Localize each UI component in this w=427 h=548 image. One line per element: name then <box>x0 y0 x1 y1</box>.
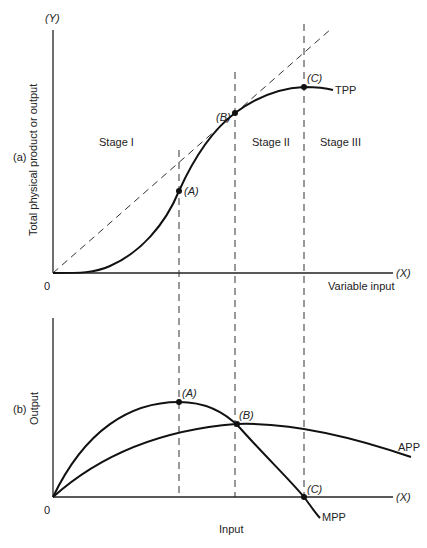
panel-tag-b: (b) <box>13 403 26 415</box>
x-axis-symbol-b: (X) <box>396 491 411 503</box>
x-axis-symbol-a: (X) <box>396 267 411 279</box>
point-c-top-label: (C) <box>307 72 323 84</box>
point-b-top-label: (B) <box>216 111 231 123</box>
ray-from-origin <box>53 29 331 273</box>
app-curve <box>53 424 411 497</box>
mpp-label: MPP <box>322 511 346 523</box>
point-a-top <box>176 188 182 194</box>
tpp-curve <box>53 87 333 273</box>
point-b-bottom <box>234 421 240 427</box>
app-label: APP <box>398 441 420 453</box>
point-a-bottom-label: (A) <box>182 387 197 399</box>
stage-1-label: Stage I <box>99 136 134 148</box>
panel-tag-a: (a) <box>13 151 26 163</box>
origin-a: 0 <box>44 280 50 292</box>
point-b-top <box>232 110 238 116</box>
point-a-bottom <box>176 399 182 405</box>
point-c-bottom-label: (C) <box>307 483 323 495</box>
panel-a: (Y) (X) 0 Variable input (a) Total physi… <box>13 12 411 497</box>
stage-2-label: Stage II <box>252 136 290 148</box>
panel-b: (X) 0 Input (b) Output APP MPP (A) (B) (… <box>13 318 420 535</box>
point-b-bottom-label: (B) <box>239 409 254 421</box>
mpp-curve <box>53 402 320 518</box>
tpp-label: TPP <box>335 84 356 96</box>
y-label-b: Output <box>28 392 40 425</box>
x-label-b: Input <box>219 523 243 535</box>
origin-b: 0 <box>44 504 50 516</box>
y-label-a: Total physical product or output <box>27 84 39 236</box>
point-c-top <box>301 84 307 90</box>
production-stages-diagram: (Y) (X) 0 Variable input (a) Total physi… <box>0 0 427 548</box>
y-axis-symbol-a: (Y) <box>45 12 60 24</box>
stage-3-label: Stage III <box>320 136 361 148</box>
point-a-top-label: (A) <box>184 185 199 197</box>
x-label-a: Variable input <box>328 280 394 292</box>
